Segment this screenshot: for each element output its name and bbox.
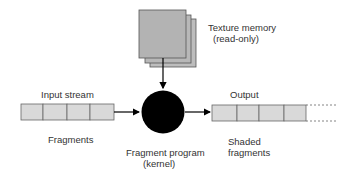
input-stream-caption: Fragments	[48, 134, 93, 145]
kernel-label: Fragment program	[126, 147, 205, 158]
texture-memory-stack	[139, 10, 196, 67]
input-stream-cells	[21, 104, 114, 120]
output-caption: Shaded	[228, 136, 261, 147]
output-title: Output	[230, 89, 259, 100]
texture-layer-1	[139, 10, 186, 58]
input-stream-title: Input stream	[41, 89, 94, 100]
kernel-circle	[142, 91, 185, 134]
texture-memory-label: Texture memory	[208, 22, 276, 33]
output-caption-2: fragments	[228, 147, 270, 158]
output-cells	[212, 105, 306, 121]
texture-memory-sublabel: (read-only)	[213, 33, 259, 44]
kernel-sublabel: (kernel)	[143, 158, 175, 169]
